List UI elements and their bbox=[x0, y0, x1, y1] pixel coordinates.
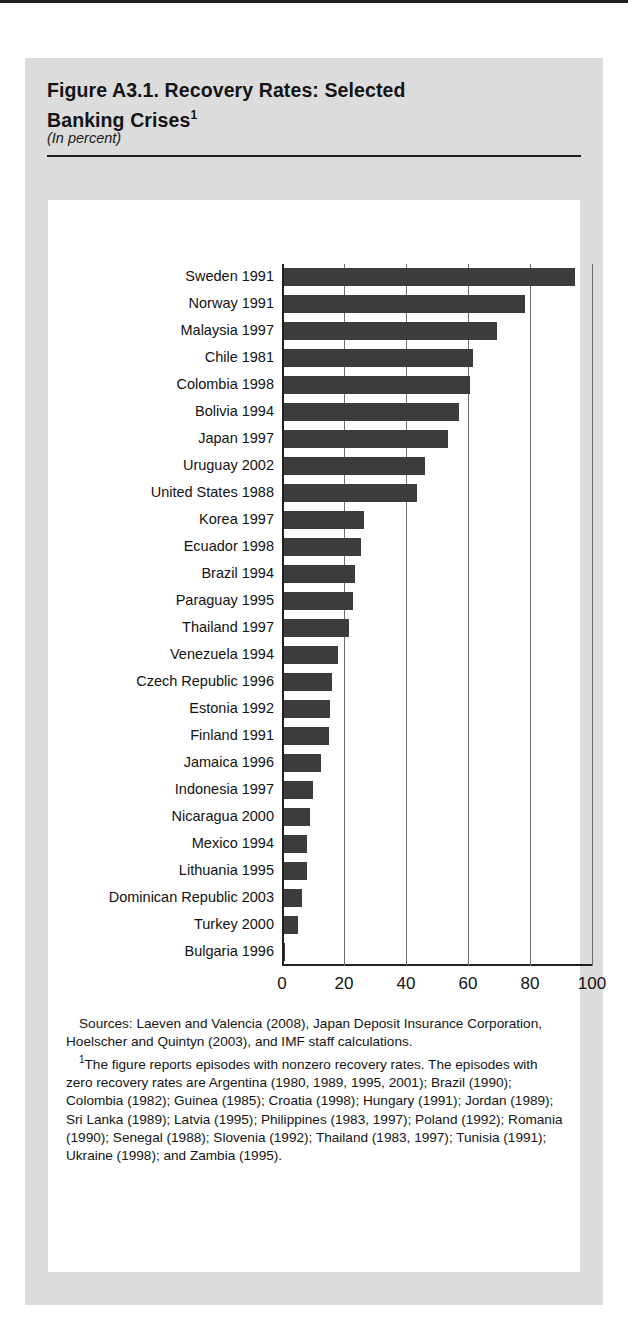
bar-row: Dominican Republic 2003 bbox=[282, 885, 592, 912]
bar bbox=[284, 808, 310, 826]
bar bbox=[284, 430, 448, 448]
bar-chart: Sweden 1991Norway 1991Malaysia 1997Chile… bbox=[48, 210, 580, 950]
bar bbox=[284, 322, 498, 340]
bar bbox=[284, 457, 425, 475]
plot-area: Sweden 1991Norway 1991Malaysia 1997Chile… bbox=[282, 264, 592, 966]
bar bbox=[284, 646, 338, 664]
figure-subtitle: (In percent) bbox=[47, 130, 121, 146]
category-label: Thailand 1997 bbox=[182, 618, 274, 637]
bar-row: Jamaica 1996 bbox=[282, 750, 592, 777]
title-divider bbox=[47, 155, 581, 157]
bar-row: Nicaragua 2000 bbox=[282, 804, 592, 831]
category-label: Colombia 1998 bbox=[176, 375, 274, 394]
bar bbox=[284, 484, 417, 502]
bar bbox=[284, 835, 307, 853]
x-tick-label: 20 bbox=[335, 974, 354, 994]
bar bbox=[284, 565, 355, 583]
category-label: Chile 1981 bbox=[205, 348, 274, 367]
bar bbox=[284, 295, 526, 313]
category-label: Lithuania 1995 bbox=[179, 861, 274, 880]
category-label: Estonia 1992 bbox=[189, 699, 274, 718]
figure-panel: Sweden 1991Norway 1991Malaysia 1997Chile… bbox=[48, 200, 580, 1272]
x-tick-label: 40 bbox=[397, 974, 416, 994]
footnote-text: The figure reports episodes with nonzero… bbox=[66, 1057, 562, 1163]
category-label: Bolivia 1994 bbox=[195, 402, 274, 421]
bar-row: Korea 1997 bbox=[282, 507, 592, 534]
sources-label: Sources: bbox=[79, 1016, 133, 1031]
category-label: Malaysia 1997 bbox=[181, 321, 275, 340]
bar-row: United States 1988 bbox=[282, 480, 592, 507]
bar-row: Malaysia 1997 bbox=[282, 318, 592, 345]
bar bbox=[284, 511, 365, 529]
x-tick-label: 80 bbox=[521, 974, 540, 994]
category-label: Indonesia 1997 bbox=[175, 780, 274, 799]
bar-row: Paraguay 1995 bbox=[282, 588, 592, 615]
x-tick-label: 0 bbox=[277, 974, 286, 994]
bar-row: Turkey 2000 bbox=[282, 912, 592, 939]
category-label: Paraguay 1995 bbox=[176, 591, 274, 610]
bar-row: Indonesia 1997 bbox=[282, 777, 592, 804]
bar bbox=[284, 889, 303, 907]
category-label: Korea 1997 bbox=[199, 510, 274, 529]
x-tick-label: 100 bbox=[578, 974, 606, 994]
sources-text: Laeven and Valencia (2008), Japan Deposi… bbox=[66, 1016, 542, 1049]
category-label: Jamaica 1996 bbox=[184, 753, 274, 772]
category-label: Mexico 1994 bbox=[192, 834, 274, 853]
bar bbox=[284, 538, 362, 556]
bar-row: Norway 1991 bbox=[282, 291, 592, 318]
category-label: Bulgaria 1996 bbox=[185, 942, 275, 961]
category-label: Ecuador 1998 bbox=[184, 537, 274, 556]
figure-title-footnote-marker: 1 bbox=[190, 108, 197, 122]
bar bbox=[284, 349, 473, 367]
category-label: Venezuela 1994 bbox=[170, 645, 274, 664]
category-label: Uruguay 2002 bbox=[183, 456, 274, 475]
category-label: Turkey 2000 bbox=[194, 915, 274, 934]
bar-row: Bulgaria 1996 bbox=[282, 939, 592, 966]
bar-row: Ecuador 1998 bbox=[282, 534, 592, 561]
bar bbox=[284, 916, 298, 934]
footnote-1: 1The figure reports episodes with nonzer… bbox=[66, 1051, 564, 1165]
bar-row: Venezuela 1994 bbox=[282, 642, 592, 669]
bar-row: Finland 1991 bbox=[282, 723, 592, 750]
sources-note: Sources: Laeven and Valencia (2008), Jap… bbox=[66, 1015, 564, 1051]
bar bbox=[284, 619, 349, 637]
bar bbox=[284, 592, 354, 610]
bar-row: Czech Republic 1996 bbox=[282, 669, 592, 696]
bar-row: Estonia 1992 bbox=[282, 696, 592, 723]
bar bbox=[284, 673, 332, 691]
bar bbox=[284, 376, 470, 394]
gridline-100 bbox=[592, 264, 593, 966]
category-label: Sweden 1991 bbox=[185, 267, 274, 286]
bar bbox=[284, 700, 331, 718]
bar bbox=[284, 403, 459, 421]
bar-row: Sweden 1991 bbox=[282, 264, 592, 291]
category-label: Brazil 1994 bbox=[201, 564, 274, 583]
bar bbox=[284, 727, 329, 745]
category-label: Finland 1991 bbox=[190, 726, 274, 745]
bar-row: Bolivia 1994 bbox=[282, 399, 592, 426]
figure-title: Figure A3.1. Recovery Rates: Selected Ba… bbox=[47, 78, 567, 133]
category-label: Japan 1997 bbox=[198, 429, 274, 448]
page-top-rule bbox=[0, 0, 628, 3]
category-label: Norway 1991 bbox=[189, 294, 274, 313]
figure-notes: Sources: Laeven and Valencia (2008), Jap… bbox=[66, 1015, 564, 1165]
figure-card: Figure A3.1. Recovery Rates: Selected Ba… bbox=[25, 58, 603, 1305]
bar bbox=[284, 862, 307, 880]
bar bbox=[284, 268, 575, 286]
figure-title-line1: Figure A3.1. Recovery Rates: Selected bbox=[47, 79, 405, 101]
category-label: Nicaragua 2000 bbox=[172, 807, 274, 826]
bar-row: Uruguay 2002 bbox=[282, 453, 592, 480]
bar-row: Lithuania 1995 bbox=[282, 858, 592, 885]
category-label: Czech Republic 1996 bbox=[136, 672, 274, 691]
bar-row: Mexico 1994 bbox=[282, 831, 592, 858]
bar bbox=[284, 943, 285, 961]
bar-rows: Sweden 1991Norway 1991Malaysia 1997Chile… bbox=[282, 264, 592, 966]
bar bbox=[284, 754, 321, 772]
bar-row: Thailand 1997 bbox=[282, 615, 592, 642]
category-label: United States 1988 bbox=[151, 483, 274, 502]
bar-row: Chile 1981 bbox=[282, 345, 592, 372]
category-label: Dominican Republic 2003 bbox=[109, 888, 274, 907]
x-tick-label: 60 bbox=[459, 974, 478, 994]
bar-row: Brazil 1994 bbox=[282, 561, 592, 588]
bar bbox=[284, 781, 313, 799]
